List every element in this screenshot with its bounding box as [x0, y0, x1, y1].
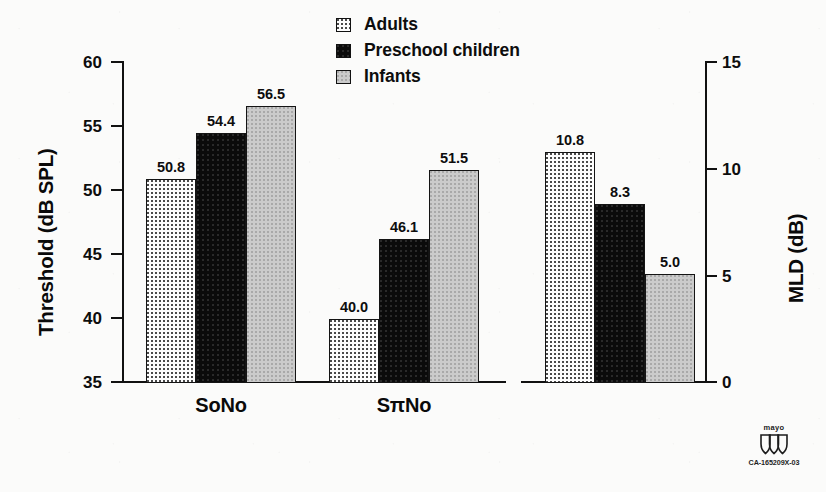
right-axis-ticklabel-5: 5: [722, 268, 731, 285]
bar-value-mld-preschool-children: 8.3: [595, 185, 645, 200]
mayo-wordmark: mayo: [731, 424, 817, 432]
left-axis-ticklabel-40: 40: [83, 310, 102, 327]
legend-swatch-infants: [336, 70, 351, 84]
right-axis-ticklabel-10: 10: [722, 161, 741, 178]
category-label-spino: SπNo: [354, 394, 454, 417]
legend-label-infants: Infants: [364, 68, 421, 86]
left-axis-title: Threshold (dB SPL): [34, 148, 58, 336]
mayo-credit: mayo CA-165209X-03: [731, 424, 817, 466]
legend: Adults Preschool children Infants: [336, 12, 586, 90]
bar-spino-adults: [329, 319, 379, 383]
bar-spino-infants: [429, 170, 479, 383]
left-axis-spine: [122, 61, 124, 382]
bar-mld-adults: [545, 152, 595, 383]
left-axis-ticklabel-50: 50: [83, 182, 102, 199]
bar-value-spino-adults: 40.0: [329, 300, 379, 315]
right-axis-ticklabel-0: 0: [722, 374, 731, 391]
bar-value-mld-adults: 10.8: [545, 133, 595, 148]
bar-sono-adults: [146, 179, 196, 383]
legend-item-adults: Adults: [336, 12, 586, 38]
legend-item-preschool-children: Preschool children: [336, 38, 586, 64]
legend-item-infants: Infants: [336, 64, 586, 90]
chart-figure: Adults Preschool children Infants 60 55 …: [0, 0, 826, 492]
left-axis-ticklabel-35: 35: [83, 374, 102, 391]
right-axis-ticklabel-15: 15: [722, 54, 741, 71]
mayo-figure-code: CA-165209X-03: [730, 459, 819, 466]
bar-value-mld-infants: 5.0: [645, 255, 695, 270]
left-axis-ticklabel-55: 55: [83, 118, 102, 135]
right-axis-tick-15: [705, 61, 717, 63]
bar-spino-preschool-children: [379, 239, 429, 383]
bar-value-spino-preschool-children: 46.1: [379, 220, 429, 235]
left-axis-tick-55: [111, 125, 123, 127]
left-axis-tick-40: [111, 317, 123, 319]
left-axis-tick-50: [111, 189, 123, 191]
bar-value-sono-infants: 56.5: [246, 87, 296, 102]
left-axis-tick-60: [111, 61, 123, 63]
right-axis-tick-0: [705, 381, 717, 383]
left-axis-ticklabel-45: 45: [83, 246, 102, 263]
left-axis-ticklabel-60: 60: [83, 54, 102, 71]
category-label-sono: SoNo: [171, 394, 271, 417]
legend-label-adults: Adults: [364, 16, 418, 34]
bar-sono-preschool-children: [196, 133, 246, 383]
legend-label-preschool-children: Preschool children: [364, 42, 520, 60]
bar-mld-infants: [645, 274, 695, 383]
bar-mld-preschool-children: [595, 204, 645, 383]
bar-value-sono-adults: 50.8: [146, 160, 196, 175]
mayo-shield-icon: [759, 433, 789, 457]
bar-sono-infants: [246, 106, 296, 383]
legend-swatch-adults: [336, 18, 351, 32]
right-axis-tick-5: [705, 275, 717, 277]
legend-swatch-preschool-children: [336, 44, 351, 58]
left-axis-tick-45: [111, 253, 123, 255]
right-axis-tick-10: [705, 168, 717, 170]
right-axis-title: MLD (dB): [784, 214, 808, 303]
right-axis-spine: [705, 61, 707, 382]
bar-value-spino-infants: 51.5: [429, 151, 479, 166]
bar-value-sono-preschool-children: 54.4: [196, 114, 246, 129]
